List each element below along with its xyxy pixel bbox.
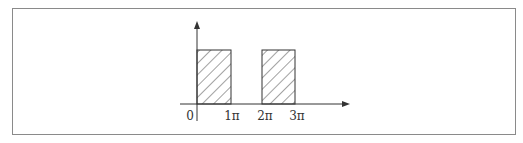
tick-label-2pi: 2π <box>257 109 273 123</box>
y-axis-arrow-icon <box>194 21 200 29</box>
tick-label-3pi: 3π <box>289 109 305 123</box>
pulse-diagram: 0 1π 2π 3π <box>0 0 523 143</box>
x-tick-labels: 0 1π 2π 3π <box>186 109 305 123</box>
pulse-1 <box>197 50 231 104</box>
tick-label-0: 0 <box>186 109 194 123</box>
tick-label-1pi: 1π <box>224 109 240 123</box>
pulse-2 <box>262 50 295 104</box>
x-axis-arrow-icon <box>342 101 350 107</box>
